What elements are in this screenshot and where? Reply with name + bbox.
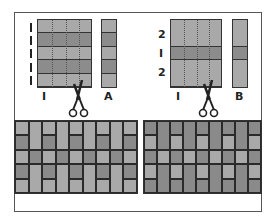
band-light	[38, 47, 91, 60]
quilt-patch-light	[83, 164, 97, 193]
left-quilt-block	[14, 120, 138, 194]
cut-line	[184, 20, 185, 87]
quilt-patch-dark	[170, 179, 183, 193]
band-light	[38, 20, 91, 33]
cut-strip-b	[232, 19, 248, 88]
quilt-patch-light	[235, 150, 248, 164]
quilt-patch-light	[56, 164, 70, 193]
quilt-patch-dark	[248, 150, 261, 164]
quilt-patch-light	[29, 164, 43, 193]
band-dark	[171, 47, 221, 60]
row-mark	[30, 36, 32, 45]
quilt-patch-dark	[42, 164, 56, 178]
quilt-patch-dark	[235, 121, 248, 150]
quilt-patch-light	[69, 150, 83, 164]
quilt-patch-dark	[123, 135, 137, 149]
quilt-patch-light	[29, 121, 43, 150]
right-strip-set-label: I	[176, 91, 180, 102]
band-light	[102, 20, 116, 33]
quilt-patch-light	[96, 121, 110, 135]
quilt-patch-light	[170, 135, 183, 149]
strip-b-label: B	[235, 91, 243, 102]
quilt-patch-dark	[144, 179, 157, 193]
cut-line	[52, 20, 53, 87]
quilt-patch-dark	[83, 150, 97, 164]
quilt-patch-dark	[69, 164, 83, 178]
quilt-patch-dark	[69, 135, 83, 149]
row-mark	[30, 76, 32, 85]
quilt-patch-dark	[222, 121, 235, 135]
quilt-patch-dark	[42, 135, 56, 149]
quilt-patch-light	[42, 150, 56, 164]
quilt-patch-dark	[170, 121, 183, 135]
scissors-icon	[198, 80, 220, 118]
quilt-patch-light	[96, 150, 110, 164]
quilt-patch-dark	[15, 135, 29, 149]
cut-line	[66, 20, 67, 87]
quilt-patch-dark	[196, 150, 209, 164]
band-light	[102, 47, 116, 60]
quilt-patch-light	[15, 121, 29, 135]
quilt-patch-light	[248, 164, 261, 178]
cut-line	[79, 20, 80, 87]
left-strip-set	[37, 19, 92, 88]
quilt-patch-light	[123, 179, 137, 193]
quilt-patch-light	[15, 179, 29, 193]
quilt-patch-dark	[123, 164, 137, 178]
quilt-patch-dark	[157, 121, 170, 150]
left-strip-set-label: I	[42, 91, 46, 102]
quilt-patch-dark	[183, 164, 196, 193]
quilt-patch-light	[196, 135, 209, 149]
quilt-patch-dark	[170, 150, 183, 164]
quilt-patch-dark	[144, 121, 157, 135]
quilt-patch-dark	[209, 164, 222, 193]
quilt-patch-dark	[56, 150, 70, 164]
quilt-patch-dark	[96, 164, 110, 178]
quilt-patch-light	[42, 121, 56, 135]
quilt-patch-dark	[15, 164, 29, 178]
strip-a-label: A	[104, 91, 113, 102]
right-quilt-block	[143, 120, 262, 194]
quilt-patch-dark	[196, 179, 209, 193]
quilt-patch-dark	[248, 179, 261, 193]
quilt-patch-dark	[183, 121, 196, 150]
band-dark	[38, 60, 91, 73]
band-dark	[38, 33, 91, 46]
quilt-patch-light	[144, 164, 157, 178]
quilt-patch-dark	[157, 164, 170, 193]
band-light	[233, 20, 247, 47]
quilt-patch-dark	[196, 121, 209, 135]
quilt-patch-light	[183, 150, 196, 164]
row-width-mark: 2	[158, 29, 166, 40]
quilt-patch-dark	[222, 179, 235, 193]
quilt-patch-dark	[110, 150, 124, 164]
row-mark	[30, 49, 32, 58]
quilt-patch-light	[123, 121, 137, 135]
quilt-patch-light	[222, 135, 235, 149]
band-dark	[102, 60, 116, 73]
row-width-mark: I	[159, 48, 163, 59]
quilt-patch-light	[196, 164, 209, 178]
quilt-patch-light	[144, 135, 157, 149]
quilt-patch-light	[248, 135, 261, 149]
cut-strip-a	[101, 19, 117, 88]
quilt-patch-dark	[235, 164, 248, 193]
left-row-marks	[30, 21, 32, 87]
quilt-patch-dark	[144, 150, 157, 164]
quilt-patch-light	[56, 121, 70, 150]
band-dark	[102, 33, 116, 46]
quilt-patch-light	[170, 164, 183, 178]
band-dark	[233, 47, 247, 60]
quilt-patch-light	[15, 150, 29, 164]
scissors-icon	[68, 80, 90, 118]
row-mark	[30, 23, 32, 32]
quilt-patch-light	[123, 150, 137, 164]
quilt-patch-dark	[209, 121, 222, 150]
band-light	[102, 74, 116, 87]
right-strip-set	[170, 19, 222, 88]
quilt-patch-light	[69, 121, 83, 135]
quilt-patch-dark	[222, 150, 235, 164]
quilt-patch-light	[96, 179, 110, 193]
cut-line	[209, 20, 210, 87]
quilt-patch-light	[110, 164, 124, 193]
